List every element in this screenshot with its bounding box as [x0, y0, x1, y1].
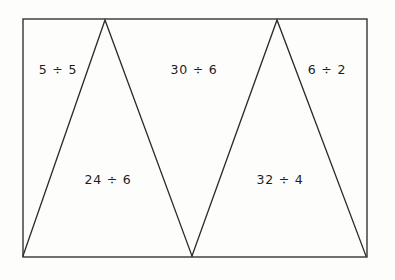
left-triangle — [23, 20, 192, 256]
expression-label-top-left: 5 ÷ 5 — [39, 64, 77, 77]
right-triangle — [192, 20, 366, 256]
expression-label-top-middle: 30 ÷ 6 — [170, 64, 217, 77]
expression-label-bottom-right: 32 ÷ 4 — [256, 174, 303, 187]
outer-rectangle — [23, 19, 367, 257]
expression-label-bottom-left: 24 ÷ 6 — [84, 174, 131, 187]
figure-canvas: 5 ÷ 5 30 ÷ 6 6 ÷ 2 24 ÷ 6 32 ÷ 4 — [0, 0, 395, 280]
expression-label-top-right: 6 ÷ 2 — [308, 64, 346, 77]
geometry-diagram — [0, 0, 395, 280]
